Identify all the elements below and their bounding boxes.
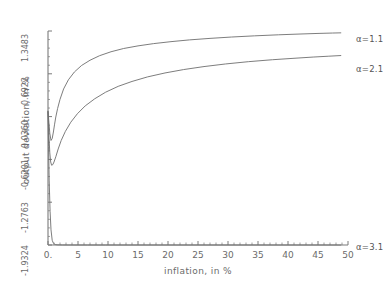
series-curve-3 — [48, 111, 341, 245]
series-curve-2 — [48, 56, 341, 166]
plot-canvas — [0, 0, 384, 290]
series-curve-1 — [48, 33, 341, 141]
chart-figure: output deviation, in % inflation, in % -… — [0, 0, 384, 290]
curves-group — [48, 33, 341, 245]
axes-group — [48, 31, 348, 245]
